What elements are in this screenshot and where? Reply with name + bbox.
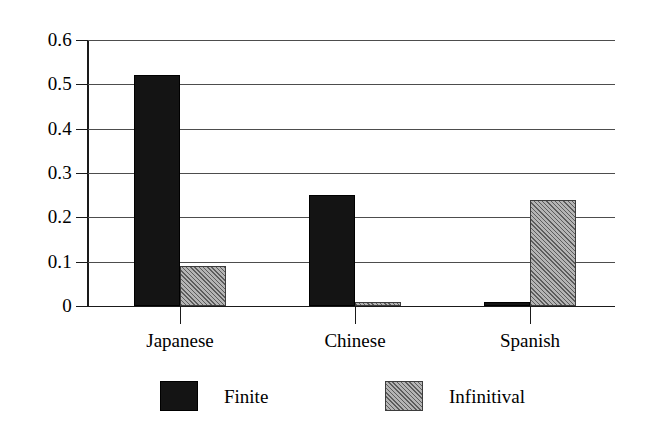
chart-legend: FiniteInfinitival <box>0 376 645 422</box>
solid-black-swatch <box>160 381 198 411</box>
y-axis-tick-label: 0.2 <box>12 207 72 226</box>
y-axis-tick-label: 0 <box>12 296 72 315</box>
legend-label: Infinitival <box>449 387 525 406</box>
bar-chart-figure: 0.60.50.40.30.20.10 JapaneseChineseSpani… <box>0 0 645 443</box>
legend-item-finite: Finite <box>160 376 268 416</box>
bar-spanish-infinitival <box>530 200 576 306</box>
x-axis-tick <box>530 307 531 324</box>
y-axis-tick <box>76 306 88 307</box>
bar-chinese-finite <box>309 195 355 306</box>
y-axis-tick <box>76 129 88 130</box>
plot-area <box>88 40 615 306</box>
x-axis-tick <box>180 307 181 324</box>
bar-japanese-finite <box>134 75 180 306</box>
x-axis-tick <box>355 307 356 324</box>
y-axis-tick <box>76 173 88 174</box>
y-axis-tick <box>76 40 88 41</box>
y-axis-tick-label: 0.1 <box>12 252 72 271</box>
gridline <box>88 40 615 41</box>
legend-label: Finite <box>224 387 268 406</box>
x-axis-category-label: Chinese <box>270 330 440 352</box>
bar-chinese-infinitival <box>355 302 401 306</box>
diagonal-hatch-swatch <box>385 381 423 411</box>
y-axis-tick <box>76 84 88 85</box>
axis-baseline <box>88 306 615 307</box>
x-axis-category-label: Spanish <box>445 330 615 352</box>
y-axis-tick <box>76 262 88 263</box>
y-axis-tick <box>76 217 88 218</box>
bar-spanish-finite <box>484 302 530 306</box>
bar-japanese-infinitival <box>180 266 226 306</box>
x-axis-category-label: Japanese <box>95 330 265 352</box>
legend-item-infinitival: Infinitival <box>385 376 525 416</box>
y-axis-tick-label: 0.3 <box>12 163 72 182</box>
y-axis-tick-label: 0.5 <box>12 74 72 93</box>
y-axis-tick-label: 0.4 <box>12 119 72 138</box>
y-axis-tick-label: 0.6 <box>12 30 72 49</box>
